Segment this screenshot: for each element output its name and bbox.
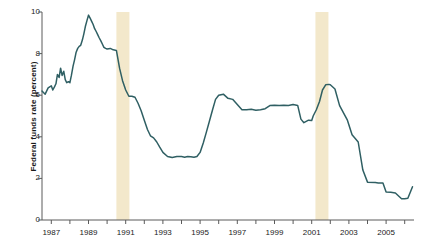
series-line-federal-funds-rate bbox=[42, 15, 413, 199]
recession-1990-1991 bbox=[116, 12, 129, 220]
data-series-group bbox=[42, 15, 413, 199]
plot-area bbox=[0, 0, 423, 252]
axis-lines-group bbox=[38, 12, 414, 224]
recession-shading-group bbox=[116, 12, 328, 220]
recession-2001 bbox=[315, 12, 328, 220]
chart-container: Federal funds rate (percent) 0246810 198… bbox=[0, 0, 423, 252]
